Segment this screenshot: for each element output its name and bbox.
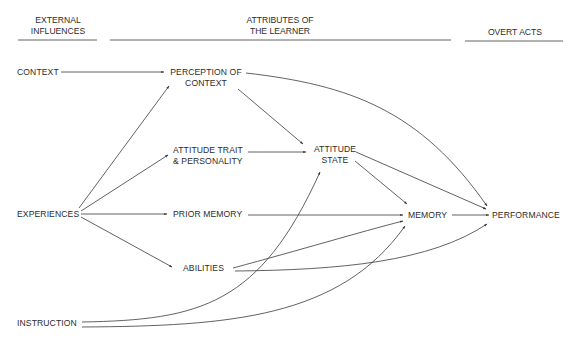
header-learner-line2: THE LEARNER (220, 26, 340, 37)
edge-attitude-state-performance (356, 152, 486, 209)
header-overt-text: OVERT ACTS (480, 27, 550, 38)
node-context: CONTEXT (17, 67, 59, 78)
edge-instruction-memory (82, 226, 405, 327)
edge-perception-performance (246, 73, 487, 206)
node-attitude-trait-line1: ATTITUDE TRAIT (173, 145, 243, 156)
edge-abilities-performance (235, 224, 487, 271)
edge-abilities-memory (233, 221, 403, 268)
node-experiences: EXPERIENCES (17, 209, 79, 220)
node-attitude-trait-line2: & PERSONALITY (173, 156, 243, 167)
node-abilities: ABILITIES (183, 263, 224, 274)
node-attitude-state-line2: STATE (310, 155, 360, 166)
node-attitude-state: ATTITUDE STATE (310, 144, 360, 166)
edge-attitude-state-memory (355, 161, 407, 204)
edge-instruction-attitude-state (82, 172, 320, 322)
header-external-line1: EXTERNAL (20, 15, 96, 26)
node-attitude-trait-personality: ATTITUDE TRAIT & PERSONALITY (173, 145, 243, 167)
node-perception-line1: PERCEPTION OF (166, 67, 246, 78)
header-external-influences: EXTERNAL INFLUENCES (20, 15, 96, 37)
node-perception-line2: CONTEXT (166, 78, 246, 89)
node-performance: PERFORMANCE (492, 210, 560, 221)
learning-model-diagram: EXTERNAL INFLUENCES ATTRIBUTES OF THE LE… (0, 0, 579, 343)
edge-experiences-abilities (81, 217, 172, 267)
node-attitude-state-line1: ATTITUDE (310, 144, 360, 155)
node-memory: MEMORY (408, 210, 447, 221)
diagram-connectors (0, 0, 579, 343)
header-external-line2: INFLUENCES (20, 26, 96, 37)
edge-experiences-attitude-trait (81, 155, 168, 211)
header-attributes-of-learner: ATTRIBUTES OF THE LEARNER (220, 15, 340, 37)
node-perception-of-context: PERCEPTION OF CONTEXT (166, 67, 246, 89)
edge-perception-attitude-state (238, 89, 303, 144)
node-instruction: INSTRUCTION (17, 318, 77, 329)
header-overt-acts: OVERT ACTS (480, 27, 550, 38)
node-prior-memory: PRIOR MEMORY (173, 209, 242, 220)
edge-experiences-perception (79, 86, 169, 208)
header-learner-line1: ATTRIBUTES OF (220, 15, 340, 26)
